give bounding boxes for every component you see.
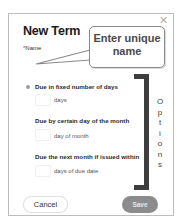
- letter: i: [156, 129, 164, 140]
- callout-line-2: name: [90, 45, 164, 58]
- letter: s: [156, 160, 164, 171]
- callout-pointer: [34, 48, 92, 66]
- day-of-month-input[interactable]: [35, 129, 51, 141]
- dialog-title: New Term: [23, 24, 80, 38]
- option-next-month[interactable]: Due the next month if issued within: [35, 153, 139, 160]
- bracket-annotation-bottom: [134, 185, 148, 190]
- callout-line-1: Enter unique: [90, 32, 164, 45]
- days-unit: days: [54, 97, 67, 103]
- day-of-month-unit: day of month: [54, 133, 89, 139]
- days-of-due-date-input[interactable]: [35, 165, 51, 177]
- option-fixed-days[interactable]: Due in fixed number of days: [26, 83, 118, 90]
- callout-annotation: Enter unique name: [89, 26, 165, 68]
- close-icon[interactable]: ✕: [158, 15, 168, 25]
- options-annotation-label: O p t i o n s: [156, 97, 164, 171]
- days-of-due-date-unit: days of due date: [54, 168, 98, 174]
- bracket-annotation-side: [144, 74, 149, 190]
- save-button[interactable]: Save: [122, 196, 158, 213]
- days-input[interactable]: [35, 94, 51, 106]
- letter: t: [156, 118, 164, 129]
- letter: O: [156, 97, 164, 108]
- letter: p: [156, 108, 164, 119]
- option-label: Due in fixed number of days: [35, 83, 118, 90]
- cancel-button[interactable]: Cancel: [23, 196, 68, 213]
- letter: o: [156, 139, 164, 150]
- radio-selected-icon[interactable]: [26, 85, 30, 89]
- letter: n: [156, 150, 164, 161]
- option-day-of-month[interactable]: Due by certain day of the month: [35, 117, 129, 124]
